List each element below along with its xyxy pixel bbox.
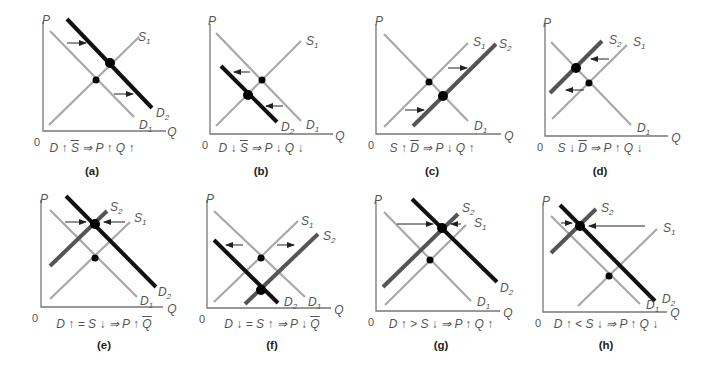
origin-label: 0: [368, 316, 374, 328]
curve-label-d1: D1: [308, 295, 321, 311]
x-axis-label: Q: [167, 302, 176, 316]
curve-label-d2: D2: [158, 285, 172, 301]
equilibrium-point: [90, 219, 100, 229]
curve-label-s2: S2: [499, 37, 512, 53]
curve-s1: [578, 229, 657, 306]
curve-s1: [216, 41, 301, 126]
y-axis-label: P: [206, 192, 214, 206]
curve-label-s1: S1: [663, 221, 675, 237]
equilibrium-point: [571, 63, 581, 73]
curve-label-s1: S1: [474, 216, 486, 232]
panel-f: PQ0D1S1D2S2: [199, 192, 344, 325]
curve-label-s1: S1: [306, 34, 318, 50]
panel-c: PQ0D1S1S2: [368, 14, 514, 151]
curve-label-d1: D1: [139, 118, 152, 134]
caption-h: D ↑ < S ↓ ⇒ P ↑ Q ↓: [554, 317, 659, 331]
caption-c: S ↑ D ⇒ P ↓ Q ↑: [390, 141, 475, 155]
curve-s1: [385, 225, 466, 305]
curve-label-s1: S1: [633, 35, 645, 51]
curve-label-s2: S2: [323, 229, 336, 245]
origin-label: 0: [32, 312, 38, 324]
curve-s1: [214, 221, 298, 302]
panel-d: PQ0D1S1S2: [537, 16, 681, 153]
x-axis-label: Q: [335, 129, 344, 143]
panel-label-f: (f): [266, 339, 278, 351]
origin-label: 0: [368, 139, 374, 151]
y-axis-label: P: [40, 192, 48, 206]
figure-supply-demand-shifts: PQ0D1S1D2PQ0D1S1D2PQ0D1S1S2PQ0D1S1S2PQ0D…: [0, 0, 714, 377]
origin-label: 0: [535, 317, 541, 329]
equilibrium-point: [259, 77, 266, 84]
origin-label: 0: [199, 313, 205, 325]
caption-e: D ↑ = S ↓ ⇒ P ↑ Q: [56, 317, 151, 331]
curve-label-s2: S2: [110, 200, 123, 216]
equilibrium-point: [243, 90, 253, 100]
origin-label: 0: [537, 141, 543, 153]
curve-label-d1: D1: [306, 118, 319, 134]
curve-s1: [50, 222, 130, 299]
curve-label-d2: D2: [284, 295, 298, 311]
panel-b: PQ0D1S1D2: [202, 14, 345, 151]
y-axis-label: P: [375, 14, 383, 28]
equilibrium-point: [256, 285, 266, 295]
curve-d2: [412, 199, 497, 282]
curve-label-d2: D2: [156, 106, 170, 122]
y-axis-label: P: [208, 14, 216, 28]
panel-label-d: (d): [593, 165, 608, 177]
x-axis-label: Q: [504, 129, 513, 143]
panel-label-b: (b): [254, 165, 269, 177]
equilibrium-point: [93, 77, 100, 84]
equilibrium-point: [575, 221, 585, 231]
y-axis-label: P: [542, 194, 550, 208]
curve-label-s1: S1: [473, 35, 485, 51]
curve-label-s2: S2: [601, 201, 614, 217]
equilibrium-point: [92, 255, 99, 262]
curve-label-s1: S1: [301, 214, 313, 230]
y-axis-label: P: [374, 193, 382, 207]
curve-label-d2: D2: [662, 292, 676, 308]
panel-label-h: (h): [599, 339, 614, 351]
x-axis-label: Q: [670, 306, 679, 320]
panel-e: PQ0D1S1S2D2: [32, 192, 177, 324]
panel-a: PQ0D1S1D2: [34, 13, 177, 148]
equilibrium-point: [427, 257, 434, 264]
curve-label-d1: D1: [474, 119, 487, 135]
equilibrium-point: [258, 255, 265, 262]
y-axis-label: P: [42, 13, 50, 27]
curve-label-s2: S2: [462, 201, 475, 217]
curve-label-d1: D1: [140, 294, 153, 310]
panel-label-e: (e): [97, 339, 111, 351]
curve-label-d1: D1: [637, 121, 650, 137]
equilibrium-point: [606, 273, 613, 280]
curve-label-d2: D2: [500, 281, 514, 297]
caption-a: D ↑ S ⇒ P ↑ Q ↑: [50, 141, 135, 155]
equilibrium-point: [437, 223, 447, 233]
curve-label-s2: S2: [609, 33, 622, 49]
caption-f: D ↓ = S ↑ ⇒ P ↓ Q: [224, 317, 319, 331]
curve-d1: [384, 212, 471, 301]
curve-d2: [560, 205, 655, 301]
panel-label-c: (c): [425, 165, 439, 177]
y-axis-label: P: [543, 16, 551, 30]
origin-label: 0: [202, 139, 208, 151]
caption-b: D ↓ S ⇒ P ↓ Q ↓: [219, 141, 304, 155]
x-axis-label: Q: [671, 131, 680, 145]
curve-label-d1: D1: [646, 298, 659, 314]
equilibrium-point: [586, 80, 593, 87]
panel-label-a: (a): [85, 165, 99, 177]
panel-label-g: (g): [434, 339, 449, 351]
curve-label-s1: S1: [138, 30, 150, 46]
curve-label-d1: D1: [477, 295, 490, 311]
x-axis-label: Q: [503, 306, 512, 320]
equilibrium-point: [105, 58, 115, 68]
panel-g: PQ0D1S1S2D2: [368, 193, 514, 328]
panel-h: PQ0D1S1S2D2: [535, 194, 680, 329]
origin-label: 0: [34, 136, 40, 148]
curve-label-d2: D2: [281, 120, 295, 136]
caption-d: S ↓ D ⇒ P ↑ Q ↓: [558, 141, 643, 155]
curve-d1: [216, 33, 301, 121]
curve-label-s1: S1: [134, 211, 146, 227]
curve-d1: [384, 34, 468, 121]
x-axis-label: Q: [334, 303, 343, 317]
x-axis-label: Q: [167, 125, 176, 139]
